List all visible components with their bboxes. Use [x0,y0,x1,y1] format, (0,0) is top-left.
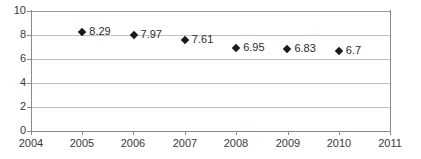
y-tick-mark-10 [27,11,31,12]
y-tick-label-2: 2 [2,101,26,112]
y-tick-label-0: 0 [2,125,26,136]
x-tick-mark-2010 [339,131,340,135]
x-tick-mark-2011 [390,131,391,135]
chart-container: 10 8 6 4 2 0 2004 2005 2006 2007 2008 20… [0,0,421,159]
plot-area [31,11,390,131]
x-tick-mark-2005 [82,131,83,135]
y-tick-mark-2 [27,107,31,108]
x-tick-label-2006: 2006 [113,137,153,149]
x-tick-label-2009: 2009 [268,137,308,149]
y-tick-label-4: 4 [2,77,26,88]
x-tick-label-2008: 2008 [216,137,256,149]
y-tick-label-8: 8 [2,29,26,40]
y-tick-label-10: 10 [2,5,26,16]
y-tick-label-6: 6 [2,53,26,64]
x-tick-label-2004: 2004 [11,137,51,149]
gridline-4 [31,83,390,84]
x-tick-mark-2007 [185,131,186,135]
x-tick-mark-2009 [288,131,289,135]
y-tick-mark-6 [27,59,31,60]
data-point-label: 6.83 [294,42,315,54]
x-tick-mark-2008 [236,131,237,135]
x-tick-label-2011: 2011 [370,137,410,149]
plot-right-border [390,10,391,132]
x-tick-label-2010: 2010 [319,137,359,149]
y-tick-mark-4 [27,83,31,84]
gridline-10 [31,11,390,12]
data-point-label: 6.95 [243,41,264,53]
x-tick-label-2007: 2007 [165,137,205,149]
y-axis-line [31,10,32,132]
data-point-label: 6.7 [346,44,361,56]
data-point-label: 7.61 [192,33,213,45]
x-tick-mark-2004 [31,131,32,135]
gridline-6 [31,59,390,60]
x-tick-label-2005: 2005 [62,137,102,149]
x-tick-mark-2006 [133,131,134,135]
gridline-2 [31,107,390,108]
gridline-0 [31,131,390,132]
data-point-label: 8.29 [89,25,110,37]
data-point-label: 7.97 [141,28,162,40]
y-tick-mark-8 [27,35,31,36]
